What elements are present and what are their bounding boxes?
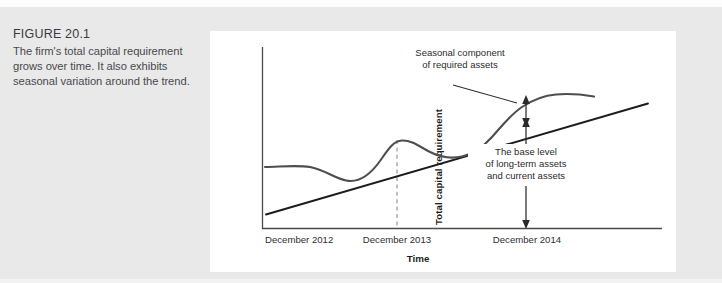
- x-tick-label-december-2012: December 2012: [265, 234, 333, 245]
- base-level-arrow-head-down: [522, 220, 530, 229]
- chart-plot-area: Seasonal component of required assets Th…: [210, 31, 676, 272]
- page-edge-bottom: [0, 279, 722, 283]
- figure-caption: FIGURE 20.1 The firm's total capital req…: [13, 27, 195, 90]
- x-tick-label-december-2013: December 2013: [363, 234, 431, 245]
- x-axis-title: Time: [407, 253, 430, 264]
- chart-axes: [263, 47, 663, 229]
- seasonal-annotation-line-1: Seasonal component: [415, 47, 505, 58]
- x-tick-label-december-2014: December 2014: [493, 234, 562, 245]
- base-level-annotation-line-2: of long-term assets: [486, 158, 567, 169]
- figure-page: FIGURE 20.1 The firm's total capital req…: [0, 0, 722, 283]
- figure-number: FIGURE 20.1: [13, 27, 195, 41]
- seasonal-gap-arrow-head-up: [522, 95, 530, 104]
- seasonal-annotation-leader-line: [453, 85, 517, 103]
- base-level-annotation-line-3: and current assets: [487, 170, 565, 181]
- figure-panel: Total capital requirement Seasonal compo…: [210, 31, 676, 272]
- series-trend-line: [266, 104, 648, 215]
- seasonal-annotation-line-2: of required assets: [422, 59, 498, 70]
- base-level-annotation-line-1: The base level: [495, 146, 557, 157]
- figure-description: The firm's total capital requirement gro…: [13, 44, 195, 90]
- page-edge-top: [0, 0, 722, 7]
